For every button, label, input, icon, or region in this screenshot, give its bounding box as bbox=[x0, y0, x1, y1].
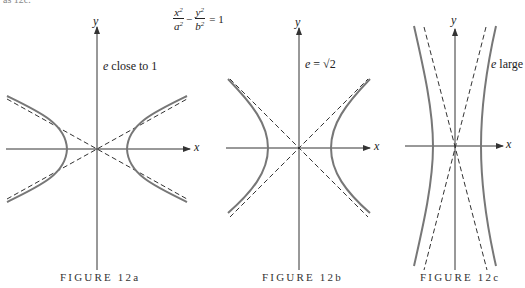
eccentricity-label-12c: e large bbox=[491, 57, 523, 72]
eccentricity-label-12a: e close to 1 bbox=[103, 59, 157, 74]
label-text: large bbox=[499, 57, 523, 71]
x-axis-label-12a: x bbox=[194, 140, 199, 155]
figure-12b bbox=[226, 28, 370, 270]
figure-12a bbox=[6, 27, 190, 270]
x-axis-label-12b: x bbox=[374, 139, 379, 154]
label-text: = √2 bbox=[313, 57, 335, 71]
eccentricity-label-12b: e = √2 bbox=[305, 57, 336, 72]
label-text: close to 1 bbox=[111, 59, 157, 73]
y-axis-label-12c: y bbox=[451, 13, 456, 28]
x-axis-label-12c: x bbox=[506, 137, 511, 152]
e-var: e bbox=[305, 57, 310, 71]
figure-caption-12c: FIGURE 12c bbox=[420, 271, 500, 283]
hyperbola-right-branch bbox=[331, 79, 370, 213]
e-var: e bbox=[103, 59, 108, 73]
figure-caption-12b: FIGURE 12b bbox=[262, 271, 343, 283]
figure-caption-12a: FIGURE 12a bbox=[60, 271, 140, 283]
y-axis-label-12b: y bbox=[295, 15, 300, 30]
hyperbola-left-branch bbox=[228, 79, 268, 213]
hyperbola-figures bbox=[0, 0, 525, 288]
figure-12c bbox=[405, 26, 503, 270]
y-axis-label-12a: y bbox=[93, 14, 98, 29]
e-var: e bbox=[491, 57, 496, 71]
